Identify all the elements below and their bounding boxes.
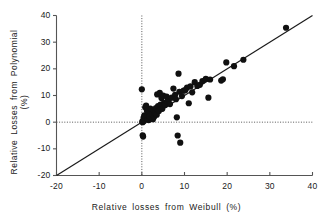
data-point <box>205 95 211 101</box>
data-point <box>177 140 183 146</box>
data-point <box>140 133 146 139</box>
data-points <box>139 25 289 146</box>
data-point <box>283 25 289 31</box>
y-tick-label: 40 <box>13 10 51 20</box>
x-tick-label: -20 <box>37 181 77 191</box>
data-point <box>223 59 229 65</box>
data-point <box>174 114 180 120</box>
data-point <box>167 101 173 107</box>
data-point <box>175 71 181 77</box>
data-point <box>220 76 226 82</box>
x-tick-label: -10 <box>79 181 119 191</box>
data-point <box>186 100 192 106</box>
data-point <box>170 85 176 91</box>
x-tick-label: 30 <box>250 181 290 191</box>
x-axis-title: Relative losses from Weibull (%) <box>0 202 333 212</box>
data-point <box>207 76 213 82</box>
data-point <box>179 93 185 99</box>
scatter-chart: -20-10010203040-20-10010203040 Relative … <box>0 0 333 223</box>
data-point <box>173 96 179 102</box>
x-tick-label: 20 <box>207 181 247 191</box>
data-point <box>240 57 246 63</box>
x-tick-label: 10 <box>165 181 205 191</box>
data-point <box>189 89 195 95</box>
y-axis-title: Relative Losses from Polynomial (%) <box>9 22 29 182</box>
data-point <box>175 132 181 138</box>
x-tick-label: 0 <box>122 181 162 191</box>
data-point <box>139 86 145 92</box>
data-point <box>231 63 237 69</box>
x-tick-label: 40 <box>293 181 333 191</box>
